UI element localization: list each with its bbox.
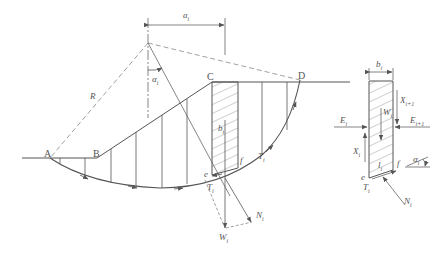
label-T-i-main: Ti: [207, 183, 214, 194]
label-b-i-fbd: bi: [376, 60, 382, 71]
label-W-i-main: Wi: [219, 233, 228, 244]
label-f-main: f: [240, 156, 243, 165]
label-X-i1: Xi+1: [400, 96, 414, 107]
label-R: R: [90, 92, 96, 101]
label-N-i-main: Ni: [256, 211, 264, 222]
label-l-i: li: [378, 161, 382, 172]
label-a-i: ai: [183, 11, 189, 22]
label-E-i: Ei: [340, 116, 347, 127]
ground-profile: [22, 82, 350, 158]
label-T-i-mid: Ti: [258, 152, 265, 163]
label-alpha-i-fbd: αi: [413, 155, 419, 166]
label-e-main: e: [204, 170, 208, 179]
label-alpha-i: αi: [152, 75, 158, 86]
label-e-fbd: e: [361, 173, 365, 182]
label-b-i-main: bi: [218, 124, 224, 135]
label-W-i-fbd: Wi: [383, 108, 392, 119]
label-point-A: A: [44, 149, 51, 159]
arc-direction-arrows: [80, 102, 296, 189]
label-N-i-fbd: Ni: [404, 197, 412, 208]
label-point-D: D: [298, 71, 305, 81]
label-point-B: B: [93, 149, 100, 159]
free-body-slice: [334, 68, 430, 205]
label-T-i-fbd: Ti: [363, 183, 370, 194]
label-E-i1: Ei+1: [410, 116, 424, 127]
label-f-fbd: f: [397, 159, 400, 168]
label-point-C: C: [207, 72, 214, 82]
label-X-i: Xi: [353, 147, 360, 158]
radius-lines: [50, 43, 300, 158]
slip-surface-arc: [50, 80, 300, 188]
angle-arc: [148, 68, 162, 70]
